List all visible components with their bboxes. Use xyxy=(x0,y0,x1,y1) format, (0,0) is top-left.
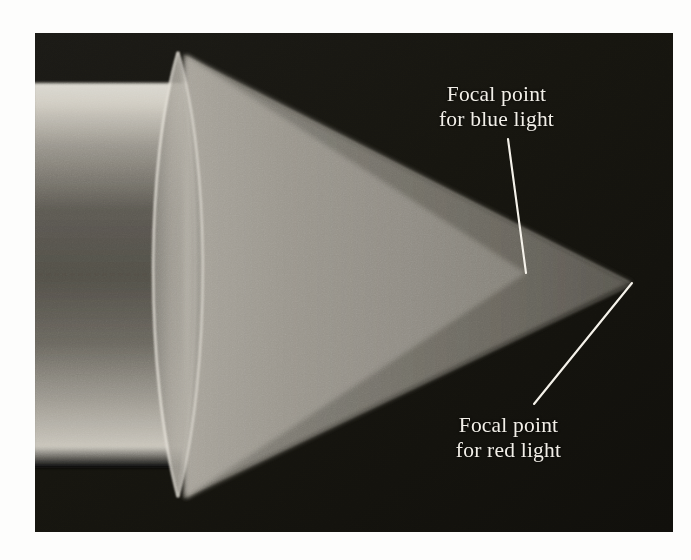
optics-scene xyxy=(35,33,673,532)
figure-root: Focal point for blue light Focal point f… xyxy=(0,0,691,560)
photograph-plate xyxy=(35,33,673,532)
